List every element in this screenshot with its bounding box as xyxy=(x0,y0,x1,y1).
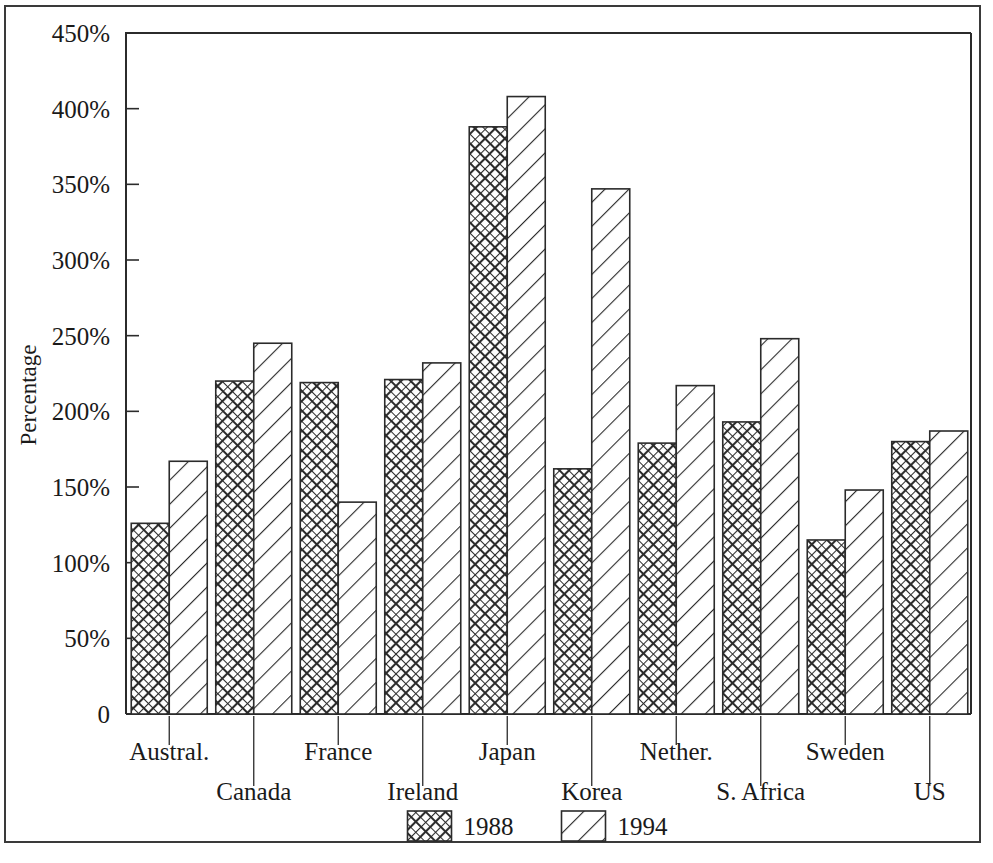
bar-1988-nether xyxy=(638,443,676,714)
x-category-label: US xyxy=(914,778,946,805)
x-category-label: Austral. xyxy=(129,738,209,765)
y-axis-tick-labels: 050%100%150%200%250%300%350%400%450% xyxy=(52,20,110,728)
x-category-label: Sweden xyxy=(806,738,886,765)
x-category-label: Korea xyxy=(561,778,622,805)
bar-1994-france xyxy=(338,502,376,714)
bar-group xyxy=(807,490,883,714)
bar-group xyxy=(554,189,630,714)
legend-swatch-1988 xyxy=(408,811,452,841)
bar-1988-japan xyxy=(469,127,507,714)
bar-1988-safrica xyxy=(723,422,761,714)
bar-group xyxy=(300,383,376,714)
y-tick-label: 350% xyxy=(52,171,110,198)
bar-group xyxy=(723,339,799,714)
y-tick-label: 50% xyxy=(64,625,110,652)
y-tick-label: 0 xyxy=(98,701,111,728)
legend-label-1988: 1988 xyxy=(464,813,514,840)
y-tick-label: 150% xyxy=(52,474,110,501)
bar-group xyxy=(638,386,714,714)
bar-1994-sweden xyxy=(845,490,883,714)
y-tick-label: 250% xyxy=(52,323,110,350)
y-tick-label: 100% xyxy=(52,550,110,577)
bar-1994-korea xyxy=(592,189,630,714)
y-tick-label: 450% xyxy=(52,20,110,47)
x-category-label: France xyxy=(304,738,372,765)
bar-1994-austral xyxy=(169,461,207,714)
bar-1988-canada xyxy=(216,381,254,714)
y-axis-title: Percentage xyxy=(16,345,41,446)
figure-container: 050%100%150%200%250%300%350%400%450% Per… xyxy=(0,0,993,863)
bar-1988-korea xyxy=(554,469,592,714)
bar-1988-france xyxy=(300,383,338,714)
bar-1994-us xyxy=(930,431,968,714)
bar-1988-austral xyxy=(131,523,169,714)
x-category-label: Nether. xyxy=(640,738,713,765)
bar-1988-ireland xyxy=(385,380,423,714)
bar-1994-nether xyxy=(676,386,714,714)
y-tick-label: 200% xyxy=(52,398,110,425)
bar-1994-canada xyxy=(254,343,292,714)
bar-1988-us xyxy=(892,442,930,714)
x-axis-category-labels: Austral.CanadaFranceIrelandJapanKoreaNet… xyxy=(129,738,945,805)
bar-1994-japan xyxy=(507,97,545,714)
x-category-label: S. Africa xyxy=(716,778,805,805)
x-category-label: Japan xyxy=(479,738,536,765)
x-category-label: Canada xyxy=(216,778,291,805)
legend-label-1994: 1994 xyxy=(618,813,669,840)
y-tick-label: 400% xyxy=(52,96,110,123)
bar-group xyxy=(892,431,968,714)
bar-chart: 050%100%150%200%250%300%350%400%450% Per… xyxy=(0,0,993,863)
bar-groups xyxy=(131,97,968,714)
bar-group xyxy=(131,461,207,714)
chart-legend: 19881994 xyxy=(408,811,669,841)
y-tick-label: 300% xyxy=(52,247,110,274)
bar-1988-sweden xyxy=(807,540,845,714)
bar-1994-ireland xyxy=(423,363,461,714)
legend-swatch-1994 xyxy=(562,811,606,841)
x-category-label: Ireland xyxy=(387,778,458,805)
bar-1994-safrica xyxy=(761,339,799,714)
bar-group xyxy=(469,97,545,714)
bar-group xyxy=(216,343,292,714)
bar-group xyxy=(385,363,461,714)
